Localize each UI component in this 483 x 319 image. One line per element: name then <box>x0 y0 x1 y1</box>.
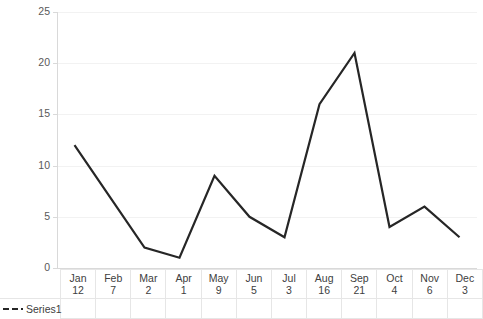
plot-area <box>57 12 477 268</box>
y-tick-label-15: 15 <box>2 108 50 119</box>
y-tick-label-20: 20 <box>2 57 50 68</box>
category-month-label: Jun <box>237 272 271 284</box>
table-category-jun: Jun5 <box>236 270 271 299</box>
category-value-label: 1 <box>166 284 200 296</box>
category-month-label: Jul <box>272 272 306 284</box>
category-month-label: Oct <box>377 272 411 284</box>
y-axis: 0510152025 <box>0 12 50 268</box>
category-value-label: 9 <box>202 284 236 296</box>
table-category-sep: Sep21 <box>342 270 377 299</box>
gridline-25 <box>57 12 477 13</box>
chart-data-table: Jan12Feb7Mar2Apr1May9Jun5Jul3Aug16Sep21O… <box>0 269 483 319</box>
table-row-values: Series1 127219531621463 <box>0 299 483 319</box>
table-category-nov: Nov6 <box>412 270 447 299</box>
y-tick-label-5: 5 <box>2 211 50 222</box>
table-category-oct: Oct4 <box>377 270 412 299</box>
category-month-label: Apr <box>166 272 200 284</box>
category-month-label: Mar <box>131 272 165 284</box>
table-category-mar: Mar2 <box>131 270 166 299</box>
category-month-label: May <box>202 272 236 284</box>
legend-label-series1: Series1 <box>26 303 62 315</box>
gridline-10 <box>57 166 477 167</box>
category-value-label: 2 <box>131 284 165 296</box>
y-tick-label-10: 10 <box>2 160 50 171</box>
y-tick-mark-10 <box>53 166 57 167</box>
category-month-label: Jan <box>61 272 95 284</box>
table-category-apr: Apr1 <box>166 270 201 299</box>
category-value-label: 7 <box>96 284 130 296</box>
legend-dashed-line-icon <box>3 306 23 312</box>
table-category-jul: Jul3 <box>271 270 306 299</box>
category-value-label: 6 <box>413 284 447 296</box>
gridline-20 <box>57 63 477 64</box>
table-category-dec: Dec3 <box>447 270 482 299</box>
category-value-label: 12 <box>61 284 95 296</box>
y-tick-mark-15 <box>53 114 57 115</box>
category-value-label: 4 <box>377 284 411 296</box>
category-month-label: Nov <box>413 272 447 284</box>
table-row-categories: Jan12Feb7Mar2Apr1May9Jun5Jul3Aug16Sep21O… <box>0 270 483 299</box>
gridline-15 <box>57 114 477 115</box>
category-month-label: Sep <box>342 272 376 284</box>
category-month-label: Aug <box>307 272 341 284</box>
category-value-label: 21 <box>342 284 376 296</box>
category-value-label: 5 <box>237 284 271 296</box>
table-category-jan: Jan12 <box>61 270 96 299</box>
category-value-label: 3 <box>448 284 482 296</box>
y-axis-line <box>57 12 58 269</box>
category-value-label: 3 <box>272 284 306 296</box>
gridline-5 <box>57 217 477 218</box>
category-month-label: Dec <box>448 272 482 284</box>
category-value-label: 16 <box>307 284 341 296</box>
table-category-may: May9 <box>201 270 236 299</box>
y-tick-mark-20 <box>53 63 57 64</box>
y-tick-mark-0 <box>53 268 57 269</box>
table-corner-blank <box>0 270 61 299</box>
y-tick-label-25: 25 <box>2 6 50 17</box>
legend-entry-series1[interactable]: Series1 <box>0 299 61 319</box>
y-tick-mark-5 <box>53 217 57 218</box>
table-category-feb: Feb7 <box>96 270 131 299</box>
category-month-label: Feb <box>96 272 130 284</box>
y-tick-mark-25 <box>53 12 57 13</box>
table-category-aug: Aug16 <box>307 270 342 299</box>
